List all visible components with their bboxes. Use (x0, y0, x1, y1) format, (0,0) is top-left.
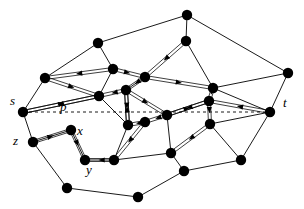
directed-edge (128, 95, 129, 121)
directed-edge (49, 81, 94, 96)
arrowhead-layer (47, 54, 244, 162)
directed-edge (171, 101, 204, 112)
graph-edge (186, 41, 213, 88)
graph-node (123, 120, 133, 130)
graph-node (140, 117, 150, 127)
arrowhead-icon (237, 105, 244, 110)
graph-node (133, 192, 143, 202)
graph-node (40, 73, 50, 83)
directed-edge (133, 124, 141, 125)
graph-node (66, 125, 76, 135)
graph-edge (33, 142, 67, 188)
graph-node (109, 155, 119, 165)
node-label-y: y (86, 163, 92, 176)
node-label-s: s (10, 94, 15, 107)
graph-edge (187, 15, 288, 73)
graph-node (93, 38, 103, 48)
graph-edge (167, 115, 171, 153)
directed-edge (147, 43, 181, 73)
directed-edge (212, 93, 213, 97)
graph-node (28, 137, 38, 147)
graph-node (121, 85, 131, 95)
node-label-z: z (13, 134, 18, 147)
graph-node (94, 91, 104, 101)
graph-node (204, 96, 214, 106)
graph-edge (241, 112, 270, 160)
graph-node (236, 155, 246, 165)
graph-edge (210, 124, 241, 160)
arrowhead-icon (112, 89, 119, 94)
directed-edge (118, 69, 141, 75)
graph-node (162, 110, 172, 120)
graph-node (205, 119, 215, 129)
directed-edge (149, 45, 183, 75)
graph-node (62, 183, 72, 193)
graph-node (166, 148, 176, 158)
graph-node (179, 166, 189, 176)
graph-edge (98, 15, 187, 43)
graph-edge (138, 171, 184, 197)
directed-edge (118, 127, 143, 158)
graph-figure: spzxyt (0, 0, 304, 209)
graph-node (265, 107, 275, 117)
graph-node (182, 10, 192, 20)
graph-node (140, 72, 150, 82)
directed-edge (209, 92, 210, 96)
directed-edge (50, 78, 95, 93)
graph-node (208, 83, 218, 93)
directed-edge (172, 104, 205, 115)
graph-canvas (0, 0, 304, 209)
directed-edge (129, 94, 162, 114)
graph-edge (99, 96, 128, 125)
graph-edge (114, 153, 171, 160)
graph-edge (210, 112, 270, 124)
graph-node (283, 68, 293, 78)
graph-node (18, 107, 28, 117)
graph-node (108, 64, 118, 74)
directed-edge (131, 91, 164, 111)
node-label-x: x (77, 124, 83, 137)
directed-edge (125, 95, 126, 121)
graph-edge (184, 160, 241, 171)
directed-edge (174, 126, 206, 150)
node-label-t: t (283, 96, 287, 109)
graph-node (181, 36, 191, 46)
graph-edge (213, 73, 288, 88)
directed-edge (176, 128, 208, 152)
node-label-p: p (60, 100, 67, 113)
graph-edge (67, 188, 138, 197)
